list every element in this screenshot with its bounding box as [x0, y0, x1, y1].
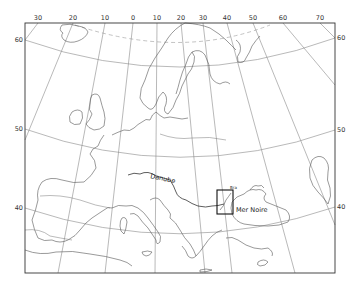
italy — [112, 205, 161, 243]
lon-label: 50 — [249, 14, 257, 22]
crete — [200, 269, 212, 272]
longitude-lines — [25, 23, 335, 273]
latitude-50 — [25, 129, 335, 157]
lat-label-right: 50 — [337, 126, 345, 134]
latitude-labels-left: 60 50 40 — [15, 36, 23, 212]
ireland — [69, 110, 82, 125]
sardinia — [120, 218, 127, 235]
europe-map: 30 20 10 0 10 20 30 40 50 60 70 60 50 40… — [0, 0, 361, 288]
sicily — [142, 251, 152, 256]
latitude-labels-right: 60 50 40 — [337, 34, 345, 211]
inset-box-label: Bra — [230, 185, 237, 190]
lon-label: 30 — [199, 14, 207, 22]
lat-label-left: 60 — [15, 36, 23, 44]
lon-label: 30 — [34, 14, 42, 22]
longitude-labels: 30 20 10 0 10 20 30 40 50 60 70 — [34, 14, 324, 22]
lon-label: 0 — [131, 14, 135, 22]
great-britain — [86, 94, 105, 130]
danube-label: Danube — [150, 172, 176, 185]
continental-coast — [112, 112, 188, 135]
lon-label: 40 — [223, 14, 231, 22]
lat-label-left: 40 — [15, 204, 23, 212]
map-frame — [25, 23, 335, 273]
white-sea — [236, 36, 260, 63]
france-iberia — [32, 135, 112, 242]
lon-label: 20 — [177, 14, 185, 22]
lat-label-right: 40 — [337, 203, 345, 211]
iceland — [60, 24, 88, 42]
finland — [192, 51, 230, 84]
cyprus — [257, 260, 268, 266]
lon-label: 20 — [69, 14, 77, 22]
caspian-sea — [309, 156, 330, 204]
scandinavia — [140, 23, 195, 114]
lat-label-right: 60 — [337, 34, 345, 42]
north-africa — [25, 250, 132, 266]
lon-label: 10 — [101, 14, 109, 22]
lon-label: 10 — [153, 14, 161, 22]
balkans — [170, 218, 196, 258]
lat-label-left: 50 — [15, 125, 23, 133]
lon-label: 60 — [279, 14, 287, 22]
borders — [25, 134, 226, 240]
black-sea-label: Mer Noire — [236, 206, 268, 214]
lon-label: 70 — [316, 14, 324, 22]
anatolia — [226, 237, 273, 256]
